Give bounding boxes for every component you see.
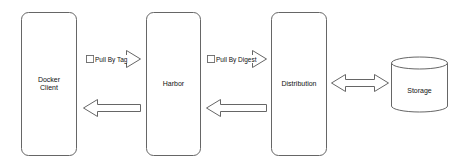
node-distribution[interactable]: Distribution xyxy=(272,13,327,156)
docker-client-label-line1: Docker xyxy=(38,76,61,83)
double-arrow-icon[interactable] xyxy=(332,75,389,92)
node-harbor[interactable]: Harbor xyxy=(147,13,201,156)
edge-return-to-client[interactable] xyxy=(84,100,141,117)
distribution-label: Distribution xyxy=(281,80,316,87)
docker-client-label-line2: Client xyxy=(40,84,58,91)
pull-by-tag-label: Pull By Tag xyxy=(95,56,128,64)
edge-pull-by-tag[interactable]: Pull By Tag xyxy=(87,51,141,68)
edge-pull-by-digest[interactable]: Pull By Digest xyxy=(208,51,267,68)
left-arrow-icon[interactable] xyxy=(207,100,267,117)
left-arrow-icon[interactable] xyxy=(84,100,141,117)
pull-by-digest-label: Pull By Digest xyxy=(216,56,257,64)
node-docker-client[interactable]: Docker Client xyxy=(22,13,77,156)
harbor-label: Harbor xyxy=(163,80,185,87)
label-tab-icon xyxy=(87,56,94,63)
label-tab-icon xyxy=(208,56,215,63)
edge-distribution-storage[interactable] xyxy=(332,75,389,92)
node-storage[interactable]: Storage xyxy=(392,57,448,112)
storage-cylinder-top xyxy=(392,57,448,69)
storage-label: Storage xyxy=(407,87,432,95)
diagram-canvas: Docker Client Harbor Distribution Storag… xyxy=(0,0,468,161)
edge-return-to-harbor[interactable] xyxy=(207,100,267,117)
